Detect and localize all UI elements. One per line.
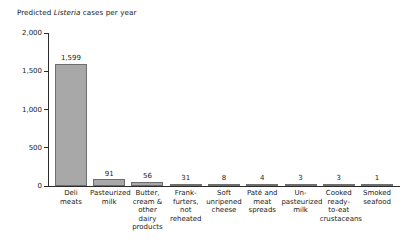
bar-value-label: 1 [375,174,379,182]
category-label-line: milk [90,198,128,207]
y-axis-tick-label: 2,000 [0,29,42,37]
bar-value-label: 56 [143,172,152,180]
category-label-line: products [128,223,166,232]
bar-value-label: 31 [181,174,190,182]
category-label-line: pasteurized [281,198,319,207]
category-label-line: Cooked [320,189,358,198]
category-label-line: spreads [243,206,281,215]
bar [208,184,240,187]
category-label-line: crustaceans [320,215,358,224]
bar [323,184,355,187]
category-label-line: Pasteurized [90,189,128,198]
category-label-line: meat [243,198,281,207]
category-label: Pasteurizedmilk [90,189,128,206]
category-label: Softunripenedcheese [205,189,243,215]
category-label-line: Paté and [243,189,281,198]
bar-group: 1,599 [52,33,90,186]
category-label-line: Frank- [167,189,205,198]
bar-value-label: 3 [298,174,302,182]
bar-group: 1 [358,33,396,186]
y-axis-tick-label: 500 [0,144,42,152]
category-label-line: Smoked [358,189,396,198]
category-label-line: furters, [167,198,205,207]
category-label-line: milk [281,206,319,215]
category-label-line: Butter, [128,189,166,198]
bar [361,184,393,187]
y-axis-tick-label: 0 [0,182,42,190]
bar [131,182,163,186]
category-label-line: to-eat [320,206,358,215]
bar-group: 31 [167,33,205,186]
bar-group: 3 [320,33,358,186]
x-axis-category-labels: DelimeatsPasteurizedmilkButter,cream &ot… [48,189,400,243]
bar-value-label: 91 [105,170,114,178]
category-label-line: Un- [281,189,319,198]
category-label-line: other dairy [128,206,166,223]
bar-value-label: 4 [260,174,264,182]
x-axis-line [48,186,400,187]
bar [170,184,202,187]
category-label: Delimeats [52,189,90,206]
chart-title-prefix: Predicted [17,8,54,17]
category-label: Frank-furters,notreheated [167,189,205,223]
category-label: Cookedready-to-eatcrustaceans [320,189,358,223]
category-label-line: reheated [167,215,205,224]
bar-value-label: 3 [337,174,341,182]
bar [246,184,278,187]
category-label-line: seafood [358,198,396,207]
bar-value-label: 1,599 [61,54,81,62]
bar-group: 3 [281,33,319,186]
chart-title-suffix: cases per year [80,8,136,17]
category-label: Paté andmeatspreads [243,189,281,215]
category-label-line: Soft [205,189,243,198]
bar-group: 8 [205,33,243,186]
bar-group: 4 [243,33,281,186]
category-label: Butter,cream &other dairyproducts [128,189,166,232]
chart-title-organism: Listeria [54,8,81,17]
bar-series: 1,59991563184331 [48,33,400,186]
category-label-line: unripened [205,198,243,207]
bar-group: 56 [128,33,166,186]
category-label-line: Deli [52,189,90,198]
y-axis-tick-label: 1,500 [0,67,42,75]
chart-title: Predicted Listeria cases per year [17,8,136,17]
bar [285,184,317,187]
category-label-line: cheese [205,206,243,215]
category-label-line: ready- [320,198,358,207]
category-label: Un-pasteurizedmilk [281,189,319,215]
listeria-bar-chart: Predicted Listeria cases per year 2,0001… [0,0,409,243]
category-label: Smokedseafood [358,189,396,206]
category-label-line: meats [52,198,90,207]
y-axis-tick-label: 1,000 [0,106,42,114]
category-label-line: not [167,206,205,215]
bar [55,64,87,186]
bar-value-label: 8 [222,174,226,182]
bar [93,179,125,186]
category-label-line: cream & [128,198,166,207]
bar-group: 91 [90,33,128,186]
